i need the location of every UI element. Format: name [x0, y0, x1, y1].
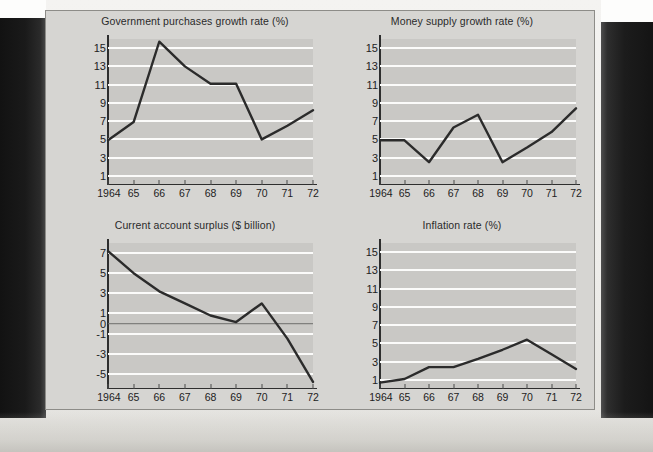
y-axis-tick-label: 11: [95, 79, 106, 90]
chart-money-supply-growth-rate: Money supply growth rate (%) 15131197531…: [338, 15, 586, 213]
series-layer: [380, 39, 576, 185]
x-axis-labels: 19646566676869707172: [380, 392, 576, 408]
chart-government-purchases-growth-rate: Government purchases growth rate (%) 151…: [66, 15, 324, 213]
series-line: [380, 340, 576, 383]
plot-area-wrapper: 75310-1-3-5 19646566676869707172: [108, 243, 313, 389]
plot-area: [380, 243, 576, 389]
y-axis-tick-label: 3: [372, 152, 378, 163]
page-bottom-shading: [0, 412, 653, 452]
y-axis-tick-label: 11: [367, 283, 378, 294]
y-axis-tick-label: 5: [100, 268, 106, 279]
series-layer: [108, 243, 313, 389]
chart-title: Inflation rate (%): [338, 219, 586, 231]
x-axis-tick-label: 1964: [369, 392, 392, 403]
series-line: [108, 42, 313, 141]
x-axis-tick-label: 65: [399, 392, 411, 403]
x-axis-tick-label: 71: [546, 392, 558, 403]
series-line: [108, 251, 313, 382]
y-axis-tick-label: 1: [372, 374, 378, 385]
y-axis-tick-label: 5: [372, 338, 378, 349]
y-axis-tick-label: 9: [372, 97, 378, 108]
chart-current-account-surplus: Current account surplus ($ billion) 7531…: [66, 219, 324, 405]
chart-title: Money supply growth rate (%): [338, 15, 586, 27]
x-axis-tick-label: 65: [128, 392, 140, 403]
y-axis-labels: 75310-1-3-5: [82, 243, 106, 389]
x-axis-tick-label: 70: [521, 188, 533, 199]
x-axis-tick-label: 69: [230, 392, 242, 403]
y-axis-tick-label: -1: [96, 328, 106, 339]
x-axis-tick-label: 71: [282, 188, 294, 199]
x-axis-tick-label: 1964: [97, 188, 120, 199]
x-axis-tick-label: 69: [230, 188, 242, 199]
scan-shadow-right-edge: [601, 22, 653, 418]
y-axis-tick-label: 9: [372, 301, 378, 312]
x-axis-tick-label: 1964: [369, 188, 392, 199]
y-axis-tick-label: -5: [96, 368, 106, 379]
x-axis-tick-label: 66: [153, 188, 165, 199]
y-axis-labels: 15131197531: [354, 39, 378, 185]
x-axis-tick-label: 71: [282, 392, 294, 403]
y-axis-tick-label: 11: [367, 79, 378, 90]
x-axis-tick-label: 72: [307, 188, 319, 199]
y-axis-tick-label: 3: [100, 152, 106, 163]
x-axis-tick-label: 70: [521, 392, 533, 403]
y-axis-tick-label: 7: [100, 248, 106, 259]
x-axis-tick-label: 68: [472, 392, 484, 403]
x-axis-tick-label: 67: [448, 392, 460, 403]
figure-panel: Government purchases growth rate (%) 151…: [45, 10, 595, 410]
x-axis-tick-label: 72: [570, 188, 582, 199]
chart-inflation-rate: Inflation rate (%) 15131197531 196465666…: [338, 219, 586, 405]
y-axis-tick-label: 3: [100, 288, 106, 299]
y-axis-tick-label: 3: [372, 356, 378, 367]
y-axis-tick-label: 1: [100, 170, 106, 181]
y-axis-tick-label: 5: [372, 134, 378, 145]
y-axis-tick-label: 13: [366, 265, 378, 276]
x-axis-tick-label: 68: [472, 188, 484, 199]
y-axis-tick-label: 1: [372, 170, 378, 181]
x-axis-tick-label: 66: [423, 392, 435, 403]
plot-area-wrapper: 15131197531 19646566676869707172: [380, 39, 576, 185]
y-axis-tick-label: 7: [100, 116, 106, 127]
x-axis-tick-label: 68: [205, 392, 217, 403]
x-axis-tick-label: 72: [570, 392, 582, 403]
x-axis-tick-label: 71: [546, 188, 558, 199]
x-axis-labels: 19646566676869707172: [108, 392, 313, 408]
plot-area: [108, 243, 313, 389]
y-axis-tick-label: 15: [366, 43, 378, 54]
x-axis-tick-label: 68: [205, 188, 217, 199]
y-axis-labels: 15131197531: [82, 39, 106, 185]
x-axis-tick-label: 70: [256, 188, 268, 199]
x-axis-labels: 19646566676869707172: [380, 188, 576, 204]
x-axis-tick-label: 69: [497, 188, 509, 199]
page-top-right-white-margin: [601, 0, 653, 22]
x-axis-tick-label: 67: [448, 188, 460, 199]
x-axis-tick-label: 67: [179, 188, 191, 199]
y-axis-labels: 15131197531: [354, 243, 378, 389]
plot-area: [380, 39, 576, 185]
x-axis-tick-label: 65: [128, 188, 140, 199]
x-axis-tick-label: 65: [399, 188, 411, 199]
x-axis-tick-label: 66: [153, 392, 165, 403]
chart-title: Current account surplus ($ billion): [66, 219, 324, 231]
plot-area-wrapper: 15131197531 19646566676869707172: [380, 243, 576, 389]
plot-area-wrapper: 15131197531 19646566676869707172: [108, 39, 313, 185]
y-axis-tick-label: 15: [366, 247, 378, 258]
series-layer: [380, 243, 576, 389]
y-axis-tick-label: 7: [372, 320, 378, 331]
y-axis-tick-label: 13: [94, 61, 106, 72]
plot-area: [108, 39, 313, 185]
y-axis-tick-label: -3: [96, 348, 106, 359]
chart-title: Government purchases growth rate (%): [66, 15, 324, 27]
y-axis-tick-label: 15: [94, 43, 106, 54]
y-axis-tick-label: 5: [100, 134, 106, 145]
x-axis-tick-label: 1964: [97, 392, 120, 403]
y-axis-tick-label: 9: [100, 97, 106, 108]
scan-shadow-left-edge: [0, 18, 46, 418]
series-line: [380, 108, 576, 162]
page-top-left-white-margin: [0, 0, 46, 18]
y-axis-tick-label: 7: [372, 116, 378, 127]
x-axis-tick-label: 69: [497, 392, 509, 403]
x-axis-labels: 19646566676869707172: [108, 188, 313, 204]
x-axis-tick-label: 70: [256, 392, 268, 403]
y-axis-tick-label: 13: [366, 61, 378, 72]
